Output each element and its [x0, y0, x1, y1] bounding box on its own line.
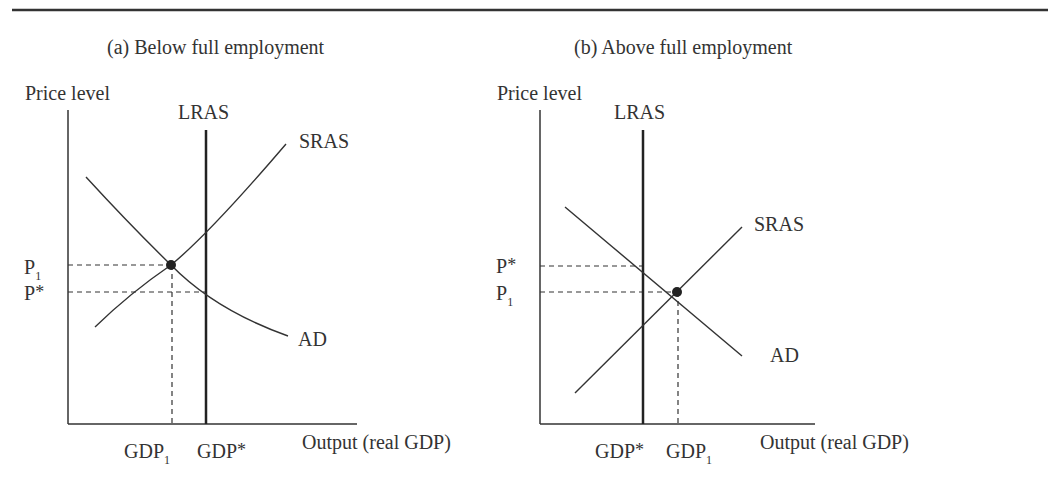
panel-a-x-axis-label: Output (real GDP) [302, 431, 451, 454]
panel-a-y-axis-label: Price level [25, 82, 110, 104]
panel-b-x-axis-label: Output (real GDP) [760, 431, 909, 454]
panel-a-lras-label: LRAS [178, 101, 229, 123]
panel-b-xtick-gdp1: GDP1 [666, 440, 712, 467]
panel-a-equilibrium-dot [166, 260, 176, 270]
panel-a-xtick-gdp1: GDP1 [124, 440, 170, 467]
panel-b-sras-label: SRAS [754, 213, 804, 235]
panel-b-ad-label: AD [770, 344, 799, 366]
panel-b-title: (b) Above full employment [574, 36, 793, 59]
panel-b-xtick-gdpstar: GDP* [595, 440, 644, 462]
panel-b: (b) Above full employment Price level LR… [496, 36, 909, 467]
panel-a-title: (a) Below full employment [107, 36, 325, 59]
panel-a-ytick-pstar: P* [24, 282, 44, 304]
panel-a-ad-label: AD [298, 328, 327, 350]
panel-b-ytick-pstar: P* [496, 255, 516, 277]
figure-canvas: (a) Below full employment Price level LR… [0, 0, 1048, 491]
panel-a-sras-curve [95, 144, 286, 327]
panel-b-y-axis-label: Price level [497, 82, 582, 104]
panel-b-lras-label: LRAS [614, 101, 665, 123]
panel-a-sras-label: SRAS [299, 130, 349, 152]
panel-b-sras-curve [575, 227, 742, 393]
panel-a-ytick-p1: P1 [24, 256, 41, 283]
panel-a-xtick-gdpstar: GDP* [197, 440, 246, 462]
panel-a: (a) Below full employment Price level LR… [24, 36, 451, 467]
panel-b-ytick-p1: P1 [496, 282, 513, 309]
panel-b-equilibrium-dot [672, 287, 682, 297]
panel-a-ad-curve [86, 177, 288, 336]
panel-b-ad-curve [565, 207, 742, 356]
